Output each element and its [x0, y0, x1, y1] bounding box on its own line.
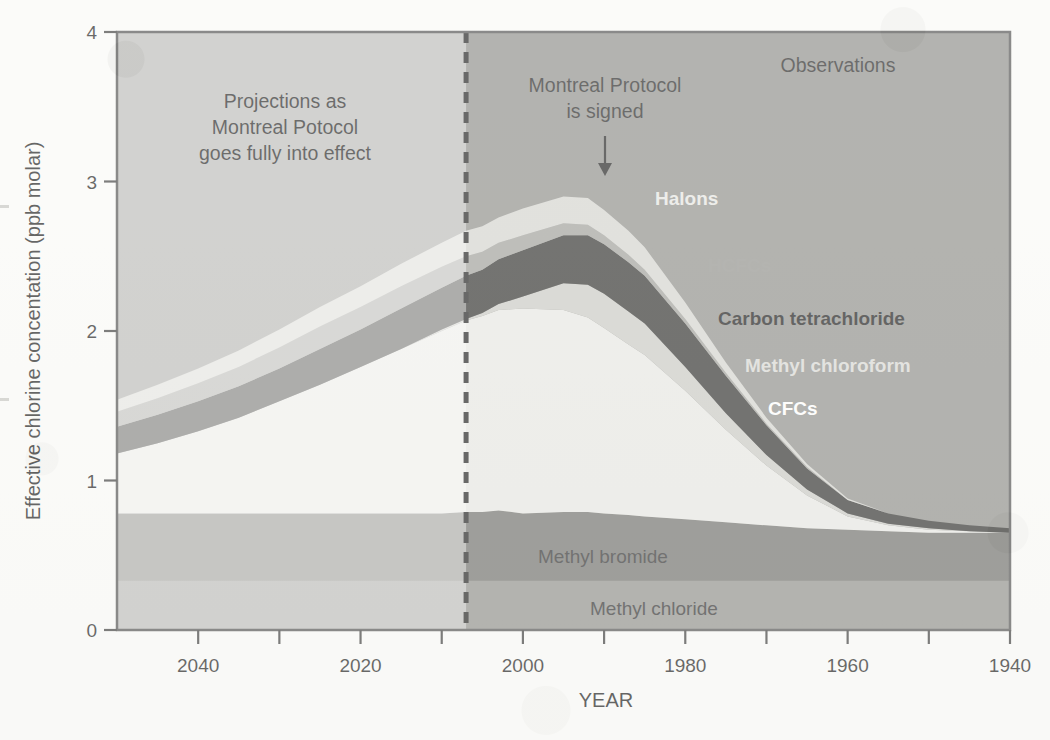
x-axis-ticks: 204020202000198019601940: [177, 630, 1031, 676]
observations-label: Observations: [781, 54, 896, 76]
series-label-cfcs: CFCs: [768, 398, 818, 419]
protocol-signed-line-1: Montreal Protocol: [529, 74, 682, 96]
page-edge-mark-bottom: [0, 398, 9, 401]
projection-annotation-line-3: goes fully into effect: [199, 142, 372, 164]
x-tick-label: 2040: [177, 655, 219, 676]
figure-root: 01234 204020202000198019601940 Effective…: [0, 0, 1050, 740]
y-tick-label: 1: [86, 471, 97, 492]
y-axis-title: Effective chlorine concentation (ppb mol…: [22, 142, 44, 521]
projection-annotation-line-1: Projections as: [224, 90, 347, 112]
series-label-methyl-chloroform: Methyl chloroform: [745, 355, 911, 376]
projection-annotation-line-2: Montreal Potocol: [212, 116, 358, 138]
series-label-carbon-tetrachloride: Carbon tetrachloride: [718, 308, 905, 329]
chlorine-stacked-area-chart: 01234 204020202000198019601940 Effective…: [0, 0, 1050, 740]
x-tick-label: 2000: [502, 655, 544, 676]
y-axis-ticks: 01234: [86, 22, 117, 641]
y-tick-label: 0: [86, 620, 97, 641]
protocol-signed-line-2: is signed: [567, 100, 644, 122]
series-label-methyl-chloride: Methyl chloride: [590, 598, 718, 619]
projection-annotation: Projections as Montreal Potocol goes ful…: [199, 90, 372, 164]
x-tick-label: 2020: [339, 655, 381, 676]
y-tick-label: 2: [86, 321, 97, 342]
series-label-hcfcs: HCFCs: [708, 255, 771, 276]
y-tick-label: 3: [86, 172, 97, 193]
series-label-methyl-bromide: Methyl bromide: [538, 546, 668, 567]
x-tick-label: 1980: [664, 655, 706, 676]
y-tick-label: 4: [86, 22, 97, 43]
series-label-halons: Halons: [655, 188, 718, 209]
x-tick-label: 1940: [989, 655, 1031, 676]
x-tick-label: 1960: [826, 655, 868, 676]
x-axis-title: YEAR: [579, 689, 633, 711]
page-edge-mark-top: [0, 205, 9, 208]
